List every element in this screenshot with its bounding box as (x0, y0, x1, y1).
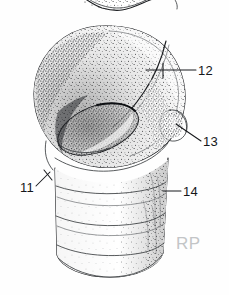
anatomical-figure: 11 12 13 14 RP (0, 0, 229, 295)
bone-shaft (50, 150, 177, 285)
head-shaft-junction-11 (45, 141, 53, 170)
label-14: 14 (183, 184, 198, 199)
top-bone-fragment (66, 0, 182, 14)
leader-11-tick (44, 170, 52, 180)
watermark-rp: RP (176, 234, 201, 253)
articular-head (30, 20, 195, 175)
figure-root: 11 12 13 14 RP (0, 0, 229, 295)
label-11: 11 (20, 180, 34, 195)
label-12: 12 (198, 63, 213, 78)
label-13: 13 (203, 134, 218, 149)
